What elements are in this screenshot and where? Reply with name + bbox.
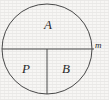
region-label-upper: A <box>44 18 52 31</box>
diagram-canvas <box>0 0 109 100</box>
right-edge-point-label: m <box>95 41 102 50</box>
circle-diagram-figure: A P B m <box>0 0 109 100</box>
region-label-lower-right: B <box>62 62 70 75</box>
region-label-lower-left: P <box>22 62 30 75</box>
